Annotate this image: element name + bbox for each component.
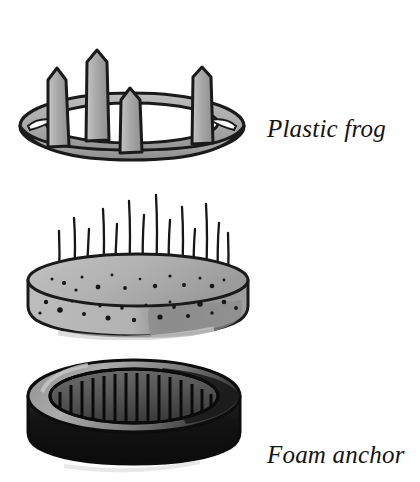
illustration-page: Plastic frog [0, 0, 420, 482]
plastic-frog-illustration [8, 22, 258, 162]
frog-spike-front-center [120, 88, 142, 153]
frog-spike-left [48, 68, 69, 147]
caption-plastic-frog: Plastic frog [267, 115, 386, 143]
well-pinholder-illustration [12, 352, 262, 482]
foam-anchor-illustration [12, 180, 262, 340]
frog-spike-back-left [86, 50, 109, 141]
foam-disc-top [28, 254, 248, 306]
frog-spike-right [192, 67, 213, 144]
figure-row-well-pinholder: Well pinholder [0, 344, 420, 482]
figure-row-plastic-frog: Plastic frog [0, 0, 420, 172]
figure-row-foam-anchor: Foam anchor [0, 172, 420, 344]
